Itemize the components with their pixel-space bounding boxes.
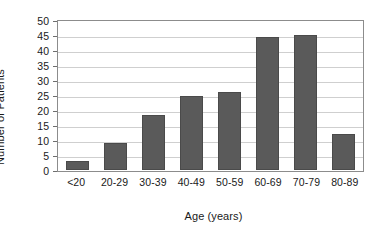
y-axis-tick-label: 0 [43, 165, 53, 177]
y-axis-tick: 25 [37, 90, 57, 102]
x-axis-tick-label: 80-89 [326, 176, 364, 188]
y-axis-tick: 35 [37, 60, 57, 72]
y-axis-tick: 30 [37, 75, 57, 87]
y-axis-tick-label: 20 [37, 105, 53, 117]
bar-slot [324, 22, 362, 170]
bar-slot [211, 22, 249, 170]
x-axis-tick-group: <2020-2930-3940-4950-5960-6970-7980-89 [57, 176, 364, 188]
y-axis-tick: 5 [43, 150, 57, 162]
bar [218, 92, 241, 170]
y-axis-tick-label: 35 [37, 60, 53, 72]
x-axis-tick-label: 20-29 [95, 176, 133, 188]
x-axis-tick-label: <20 [57, 176, 95, 188]
plot-area [57, 20, 364, 172]
y-axis-tick: 0 [43, 165, 57, 177]
x-axis-tick-label: 60-69 [249, 176, 287, 188]
x-axis-tick-label: 40-49 [172, 176, 210, 188]
bar [142, 115, 165, 170]
bar-slot [59, 22, 97, 170]
bar-slot [173, 22, 211, 170]
y-axis-tick: 15 [37, 120, 57, 132]
y-axis-tick-label: 45 [37, 30, 53, 42]
y-axis-tick-label: 50 [37, 15, 53, 27]
bar-slot [97, 22, 135, 170]
y-axis-tick-label: 30 [37, 75, 53, 87]
bar [66, 161, 89, 170]
y-axis-tick: 45 [37, 30, 57, 42]
y-axis-tick-label: 10 [37, 135, 53, 147]
y-axis-tick: 20 [37, 105, 57, 117]
bar [104, 143, 127, 170]
y-axis-tick: 50 [37, 15, 57, 27]
bar-chart-figure: Number of Patients 05101520253035404550 … [0, 0, 378, 234]
bars-layer [59, 22, 362, 170]
y-axis-tick: 40 [37, 45, 57, 57]
bar-slot [135, 22, 173, 170]
y-axis-tick-label: 15 [37, 120, 53, 132]
x-axis-tick-label: 70-79 [287, 176, 325, 188]
y-axis-tick-group: 05101520253035404550 [0, 20, 57, 172]
bar [294, 35, 317, 170]
bar-slot [248, 22, 286, 170]
bar [256, 37, 279, 170]
bar [332, 134, 355, 170]
y-axis-tick-label: 5 [43, 150, 53, 162]
x-axis-tick-label: 30-39 [134, 176, 172, 188]
bar-slot [286, 22, 324, 170]
y-axis-tick: 10 [37, 135, 57, 147]
y-axis-tick-label: 40 [37, 45, 53, 57]
x-axis-title: Age (years) [57, 210, 370, 222]
x-axis-tick-label: 50-59 [211, 176, 249, 188]
bar [180, 96, 203, 170]
y-axis-tick-label: 25 [37, 90, 53, 102]
